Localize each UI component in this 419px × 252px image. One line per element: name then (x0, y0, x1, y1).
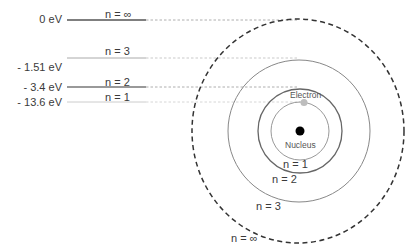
orbit-label-2: n = 2 (272, 174, 297, 185)
level-n-3: n = 3 (105, 46, 130, 57)
bohr-diagram (0, 0, 419, 252)
orbit-label-inf: n = ∞ (231, 233, 258, 244)
orbit-label-1: n = 1 (283, 159, 308, 170)
nucleus (296, 127, 305, 136)
energy-label-3: - 1.51 eV (0, 62, 62, 73)
energy-label-2: - 3.4 eV (0, 82, 62, 93)
electron-label: Electron (290, 91, 321, 100)
energy-label-1: - 13.6 eV (0, 97, 62, 108)
orbit-label-3: n = 3 (256, 201, 281, 212)
nucleus-label: Nucleus (285, 141, 316, 150)
level-n-1: n = 1 (105, 92, 130, 103)
electron (301, 99, 308, 106)
level-n-2: n = 2 (105, 77, 130, 88)
energy-label-inf: 0 eV (0, 14, 62, 25)
level-n-inf: n = ∞ (105, 9, 132, 20)
